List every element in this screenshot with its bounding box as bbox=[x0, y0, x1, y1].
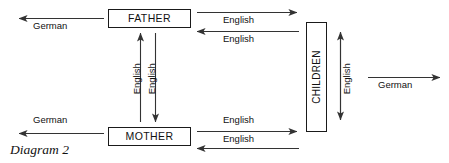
diagram-canvas: FATHER MOTHER CHILDREN German German Ger… bbox=[0, 0, 449, 163]
edge-label-children-internal-english: English bbox=[342, 56, 352, 102]
node-children-label: CHILDREN bbox=[312, 50, 322, 104]
node-mother-label: MOTHER bbox=[126, 131, 174, 142]
edge-label-father-to-children-english: English bbox=[223, 15, 254, 25]
edge-label-children-to-mother-english: English bbox=[223, 134, 254, 144]
node-father-label: FATHER bbox=[128, 13, 171, 24]
edge-label-mother-to-father-english: English bbox=[132, 56, 142, 102]
edge-label-mother-outward-german: German bbox=[33, 115, 67, 125]
diagram-caption: Diagram 2 bbox=[10, 143, 69, 157]
edge-label-mother-to-children-english: English bbox=[223, 115, 254, 125]
edge-label-children-outward-german: German bbox=[378, 80, 412, 90]
node-children: CHILDREN bbox=[306, 22, 327, 132]
node-mother: MOTHER bbox=[108, 127, 191, 146]
edge-label-father-to-mother-english: English bbox=[147, 56, 157, 102]
edge-label-father-outward-german: German bbox=[33, 21, 67, 31]
node-father: FATHER bbox=[108, 9, 191, 28]
edge-label-children-to-father-english: English bbox=[223, 34, 254, 44]
